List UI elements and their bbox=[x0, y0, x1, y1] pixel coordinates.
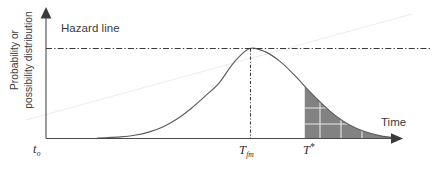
y-axis-arrowhead bbox=[41, 7, 52, 19]
x-axis-arrowhead bbox=[391, 133, 403, 143]
tick-label-t-zero-sub: o bbox=[37, 149, 41, 158]
hazard-line-label: Hazard line bbox=[61, 23, 120, 35]
tick-label-t-zero-base: t bbox=[33, 142, 36, 156]
y-axis-label-line1: Probability or bbox=[8, 0, 22, 134]
tick-label-t-star: T* bbox=[303, 144, 315, 157]
tick-label-t-fm: Tfm bbox=[239, 144, 254, 157]
tick-label-t-fm-base: T bbox=[239, 143, 246, 157]
x-axis-label: Time bbox=[381, 117, 406, 129]
y-axis-label: Probability or possibility distribution bbox=[8, 0, 42, 134]
tick-label-t-star-sup: * bbox=[310, 142, 315, 152]
distribution-hazard-figure: Hazard line Time Probability or possibil… bbox=[0, 0, 435, 171]
y-axis-label-line2: possibility distribution bbox=[22, 0, 36, 134]
shaded-tail-area bbox=[305, 86, 396, 138]
tick-label-t-zero: to bbox=[33, 143, 40, 156]
tick-label-t-fm-sub: fm bbox=[246, 150, 254, 159]
distribution-curve bbox=[97, 48, 395, 138]
tick-label-t-star-base: T bbox=[303, 143, 310, 157]
